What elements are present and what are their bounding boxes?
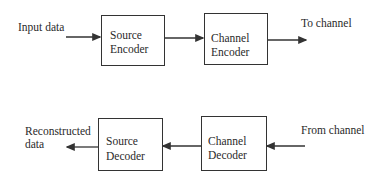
source-encoder-block: Source Encoder <box>101 15 165 66</box>
from-channel-label: From channel <box>301 124 365 137</box>
reconstructed-data-label-line1: Reconstructed <box>25 125 91 138</box>
reconstructed-data-label-line2: data <box>25 138 44 151</box>
channel-decoder-line2: Decoder <box>208 149 247 162</box>
source-encoder-line1: Source <box>110 29 142 42</box>
channel-decoder-line1: Channel <box>208 135 246 148</box>
channel-encoder-line1: Channel <box>211 32 249 45</box>
source-decoder-line1: Source <box>106 135 138 148</box>
channel-encoder-block: Channel Encoder <box>204 13 268 65</box>
source-decoder-block: Source Decoder <box>98 118 163 171</box>
source-encoder-line2: Encoder <box>110 43 148 56</box>
source-decoder-line2: Decoder <box>106 150 145 163</box>
channel-encoder-line2: Encoder <box>211 46 249 59</box>
to-channel-label: To channel <box>301 17 352 30</box>
input-data-label: Input data <box>18 21 64 34</box>
channel-decoder-block: Channel Decoder <box>201 116 267 171</box>
